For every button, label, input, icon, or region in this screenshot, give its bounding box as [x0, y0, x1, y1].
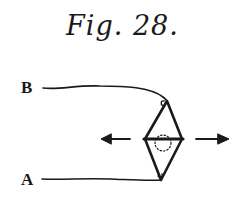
arrow-right-icon	[218, 134, 229, 144]
strand-a-line	[42, 179, 161, 181]
strand-b-line	[43, 86, 167, 103]
diagram-drawing	[0, 0, 245, 212]
figure-canvas: Fig. 28. B A	[0, 0, 245, 212]
arrow-left-icon	[101, 134, 111, 144]
